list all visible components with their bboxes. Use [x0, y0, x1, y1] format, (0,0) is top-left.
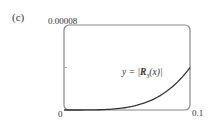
- curve-annotation: y = |R3(x)|: [122, 68, 163, 79]
- eq-prefix: y = |: [122, 67, 140, 77]
- plot-area: [0, 0, 215, 125]
- eq-suffix: (x)|: [149, 67, 162, 77]
